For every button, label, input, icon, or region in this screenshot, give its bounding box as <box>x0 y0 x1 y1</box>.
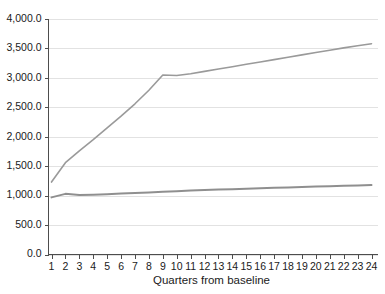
x-tick-label: 15 <box>240 260 252 272</box>
gridlines <box>49 20 378 256</box>
x-tick-label: 1 <box>49 260 55 272</box>
x-tick-label: 24 <box>366 260 378 272</box>
x-tick-label: 16 <box>254 260 266 272</box>
x-tick-label: 12 <box>199 260 211 272</box>
series-line-lower-series <box>52 185 372 197</box>
line-chart: 0.0500.01,000.01,500.02,000.02,500.03,00… <box>0 0 385 294</box>
series-line-upper-series <box>52 44 372 182</box>
x-tick-label: 11 <box>185 260 196 272</box>
y-tick-label: 2,000.0 <box>6 130 41 142</box>
x-tick-label: 17 <box>268 260 280 272</box>
x-tick-label: 7 <box>132 260 138 272</box>
y-tick-label: 3,000.0 <box>6 71 41 83</box>
x-tick-label: 9 <box>160 260 166 272</box>
x-tick-label: 22 <box>338 260 350 272</box>
x-tick-label: 23 <box>352 260 364 272</box>
x-tick-label: 14 <box>227 260 239 272</box>
x-tick-label: 21 <box>324 260 336 272</box>
chart-canvas: 0.0500.01,000.01,500.02,000.02,500.03,00… <box>0 0 385 294</box>
data-series <box>52 44 372 198</box>
y-tick-label: 4,000.0 <box>6 12 41 24</box>
x-tick-label: 8 <box>146 260 152 272</box>
x-tick-label: 13 <box>213 260 225 272</box>
y-tick-label: 2,500.0 <box>6 100 41 112</box>
x-tick-label: 20 <box>310 260 322 272</box>
x-tick-label: 5 <box>104 260 110 272</box>
x-tick-label: 6 <box>118 260 124 272</box>
y-tick-label: 500.0 <box>15 218 41 230</box>
x-tick-label: 10 <box>171 260 183 272</box>
x-tick-label: 3 <box>76 260 82 272</box>
y-axis-tick-labels: 0.0500.01,000.01,500.02,000.02,500.03,00… <box>6 12 41 260</box>
x-axis-tick-labels: 123456789101112131415161718192021222324 <box>49 260 378 272</box>
x-axis-title: Quarters from baseline <box>153 274 270 286</box>
y-tick-label: 3,500.0 <box>6 41 41 53</box>
x-tick-label: 2 <box>62 260 68 272</box>
y-tick-label: 1,000.0 <box>6 188 41 200</box>
x-tick-label: 18 <box>282 260 294 272</box>
x-tick-label: 4 <box>90 260 96 272</box>
x-tick-label: 19 <box>296 260 308 272</box>
y-tick-label: 0.0 <box>27 247 42 259</box>
y-tick-label: 1,500.0 <box>6 159 41 171</box>
